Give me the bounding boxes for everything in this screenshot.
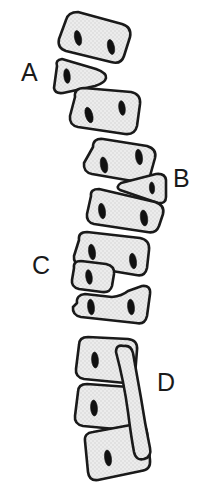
spine-figure: A B C D [0, 0, 204, 495]
vertebra-8 [72, 261, 114, 292]
region-label-d: D [157, 370, 175, 395]
region-label-c: C [32, 253, 50, 278]
region-label-b: B [173, 166, 190, 191]
bone-group [54, 12, 166, 480]
vertebra-1 [59, 12, 131, 63]
region-label-a: A [21, 60, 38, 85]
vertebra-3 [70, 88, 140, 134]
vertebra-9 [73, 286, 150, 323]
